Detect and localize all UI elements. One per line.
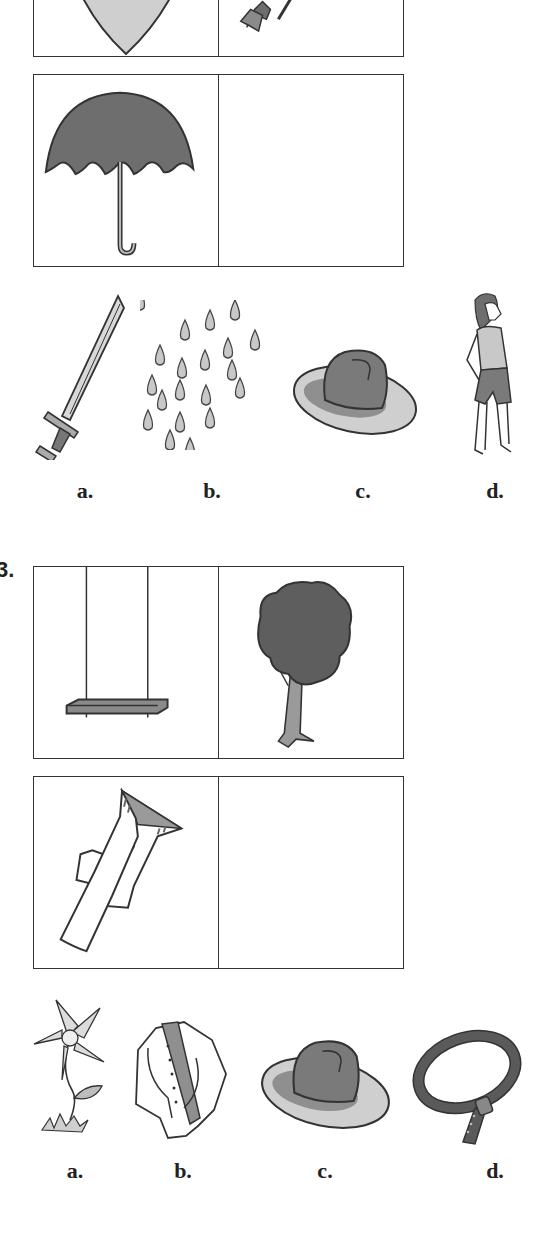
q3-choice-a[interactable]: [30, 990, 105, 1140]
umbrella-icon: [34, 75, 218, 266]
q3-choice-c[interactable]: [258, 1030, 393, 1145]
q2-analogy-top-row: [33, 0, 404, 57]
q3-analogy-bottom-row: [33, 776, 404, 969]
q3-choice-c-label: c.: [317, 1158, 332, 1184]
q2-choice-c-label: c.: [355, 478, 370, 504]
q3-choice-b-label: b.: [174, 1158, 192, 1184]
flower-icon: [30, 990, 105, 1140]
q3-choice-d[interactable]: [405, 1020, 525, 1150]
q2-choice-c[interactable]: [290, 340, 420, 450]
girl-icon: [445, 290, 545, 465]
q2-choice-d-label: d.: [486, 478, 504, 504]
q3-answer-blank[interactable]: [219, 777, 403, 968]
belt-icon: [405, 1020, 525, 1150]
q2-cell-shield: [34, 0, 218, 56]
q3-cell-pants: [34, 777, 218, 968]
q2-cell-arrow: [219, 0, 403, 56]
shield-icon: [34, 0, 218, 56]
q2-choice-b-label: b.: [203, 478, 221, 504]
sword-icon: [30, 290, 140, 460]
q3-cell-swing: [34, 567, 218, 758]
question-number: 3.: [0, 557, 14, 583]
q2-answer-blank[interactable]: [219, 75, 403, 266]
q2-cell-umbrella: [34, 75, 218, 266]
raindrops-icon: [140, 300, 270, 450]
q2-choice-d[interactable]: [445, 290, 545, 465]
swing-icon: [34, 567, 218, 758]
q2-choice-b[interactable]: [140, 300, 270, 450]
q3-choice-d-label: d.: [486, 1158, 504, 1184]
q3-cell-tree: [219, 567, 403, 758]
hat-icon: [258, 1030, 393, 1145]
hat-icon: [290, 340, 420, 450]
arrow-icon: [219, 0, 403, 56]
tree-icon: [219, 567, 403, 758]
q2-choice-a[interactable]: [30, 290, 140, 460]
q3-choice-a-label: a.: [67, 1158, 84, 1184]
q2-choice-a-label: a.: [77, 478, 94, 504]
jacket-icon: [128, 1008, 233, 1143]
q2-analogy-bottom-row: [33, 74, 404, 267]
q3-choice-b[interactable]: [128, 1008, 233, 1143]
pants-icon: [34, 777, 218, 968]
q3-analogy-top-row: [33, 566, 404, 759]
